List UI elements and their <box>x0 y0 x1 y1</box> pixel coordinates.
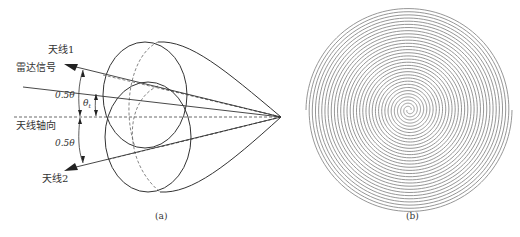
spiral-arm-2 <box>306 9 509 209</box>
spiral-antenna-diagram <box>0 0 520 237</box>
panel-label-b: (b) <box>406 212 419 221</box>
spiral-arm-1 <box>309 12 512 212</box>
